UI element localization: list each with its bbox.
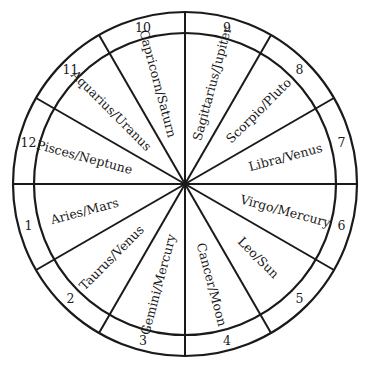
sign-ruler-label: Sagittarius/Jupiter [189,25,234,143]
house-number: 10 [135,20,151,35]
sign-ruler-label: Capricorn/Saturn [136,28,179,139]
sign-ruler-label: Taurus/Venus [76,222,147,293]
house-number: 12 [21,135,37,150]
house-number: 11 [62,62,78,77]
house-number: 9 [223,20,231,35]
house-number: 7 [338,135,346,150]
sign-ruler-label: Aries/Mars [48,195,120,228]
house-number: 4 [223,333,231,348]
house-number: 2 [66,291,74,306]
sign-ruler-label: Gemini/Mercury [137,232,179,337]
house-number: 5 [296,291,304,306]
house-number: 1 [25,218,33,233]
sign-ruler-label: Virgo/Mercury [238,191,333,230]
house-number: 6 [338,218,346,233]
sign-ruler-label: Pisces/Neptune [35,137,134,177]
house-number: 3 [139,333,147,348]
house-number: 8 [296,62,304,77]
sign-ruler-label: Scorpio/Pluto [223,75,294,146]
house-wheel-diagram: Aries/MarsTaurus/VenusGemini/MercuryCanc… [0,0,367,367]
sign-ruler-label: Libra/Venus [247,140,324,174]
sign-ruler-label: Leo/Sun [235,234,282,281]
